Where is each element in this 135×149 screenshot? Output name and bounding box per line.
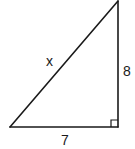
hypotenuse-label: x <box>46 53 53 69</box>
right-angle-marker <box>111 120 118 127</box>
hypotenuse-side <box>10 1 118 127</box>
horizontal-leg-label: 7 <box>61 132 69 148</box>
right-triangle-diagram: x 8 7 <box>0 0 135 149</box>
vertical-leg-label: 8 <box>123 63 131 79</box>
triangle <box>10 1 118 127</box>
